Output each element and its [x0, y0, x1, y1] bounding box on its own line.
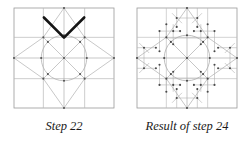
eight-pointed-star-block-result-step-24	[131, 5, 243, 115]
step-22-drawing	[8, 5, 120, 115]
caption-result-step-24: Result of step 24	[129, 118, 245, 134]
panel-step-22: Step 22	[8, 0, 123, 142]
result-step-24-drawing	[131, 5, 243, 115]
caption-step-22: Step 22	[8, 118, 120, 134]
panel-result-step-24: Result of step 24	[131, 0, 246, 142]
figure-sheet: Step 22	[0, 0, 250, 142]
eight-pointed-star-block-step-22	[8, 5, 120, 115]
